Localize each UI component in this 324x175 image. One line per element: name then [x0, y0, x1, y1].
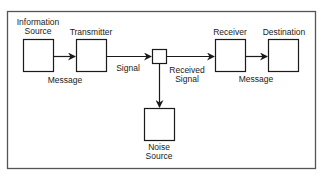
- received-signal-label-2: Signal: [175, 74, 199, 84]
- communication-diagram: Information Source Transmitter Receiver …: [0, 0, 324, 175]
- transmitter-label: Transmitter: [70, 27, 113, 37]
- information-source-box: [24, 40, 54, 72]
- transmitter-box: [77, 40, 107, 72]
- message-label-2: Message: [239, 74, 274, 84]
- message-label-1: Message: [48, 75, 83, 85]
- receiver-box: [216, 40, 246, 72]
- signal-label: Signal: [116, 63, 140, 73]
- destination-label: Destination: [263, 27, 306, 37]
- destination-box: [269, 40, 299, 72]
- noise-source-box: [145, 109, 175, 141]
- receiver-label: Receiver: [213, 27, 247, 37]
- information-source-label-2: Source: [25, 26, 52, 36]
- noise-junction-box: [153, 50, 167, 64]
- noise-source-label-2: Source: [146, 151, 173, 161]
